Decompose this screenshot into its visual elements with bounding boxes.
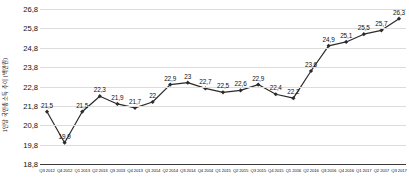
gridline <box>40 106 406 107</box>
y-axis-tick-label: 18,8 <box>23 160 38 169</box>
x-axis-tick-label: Q2 2017 <box>374 168 389 173</box>
y-axis-tick-labels: 26,825,824,823,822,821,820,819,818,8 <box>10 0 38 190</box>
data-point-label: 23 <box>184 73 191 80</box>
data-point-label: 25,7 <box>375 20 387 27</box>
data-point-marker <box>186 81 190 85</box>
y-axis-tick-label: 22,8 <box>23 82 38 91</box>
data-point-label: 19,9 <box>59 133 71 140</box>
x-axis-tick-label: Q3 2013 <box>110 168 125 173</box>
x-axis-tick-label: Q3 2017 <box>391 168 406 173</box>
data-point-label: 22,7 <box>199 78 211 85</box>
data-point-label: 22,5 <box>217 82 229 89</box>
data-point-label: 23,6 <box>305 61 317 68</box>
data-point-marker <box>362 32 366 36</box>
data-point-label: 21,5 <box>76 102 88 109</box>
y-axis-tick-label: 19,8 <box>23 140 38 149</box>
x-axis-tick-label: Q1 2017 <box>356 168 371 173</box>
y-axis-tick-label: 25,8 <box>23 24 38 33</box>
data-point-label: 22,3 <box>94 86 106 93</box>
x-axis-tick-label: Q1 2016 <box>286 168 301 173</box>
plot-area: 21,519,921,522,321,921,72222,92322,722,5… <box>40 9 406 164</box>
gridline <box>40 145 406 146</box>
gridline <box>40 125 406 126</box>
data-point-label: 22,4 <box>270 84 282 91</box>
y-axis-tick-label: 21,8 <box>23 101 38 110</box>
x-axis-tick-label: Q4 2016 <box>338 168 353 173</box>
gridline <box>40 67 406 68</box>
x-axis-tick-label: Q2 2016 <box>303 168 318 173</box>
data-point-label: 22,6 <box>235 80 247 87</box>
x-axis-tick-labels: Q3 2012Q4 2012Q1 2013Q2 2013Q3 2013Q4 20… <box>40 166 406 188</box>
data-point-label: 22,9 <box>164 75 176 82</box>
data-point-label: 21,9 <box>111 94 123 101</box>
data-point-label: 22,2 <box>287 88 299 95</box>
data-point-marker <box>221 90 225 94</box>
data-point-label: 24,9 <box>323 36 335 43</box>
x-axis-tick-label: Q1 2015 <box>215 168 230 173</box>
x-axis-tick-label: Q4 2013 <box>127 168 142 173</box>
data-point-label: 21,7 <box>129 98 141 105</box>
data-point-label: 25,1 <box>340 32 352 39</box>
x-axis-tick-label: Q2 2015 <box>233 168 248 173</box>
y-axis-tick-label: 26,8 <box>23 5 38 14</box>
data-point-label: 21,5 <box>41 102 53 109</box>
data-point-label: 22,9 <box>252 75 264 82</box>
y-axis-tick-label: 24,8 <box>23 43 38 52</box>
data-point-label: 22 <box>149 92 156 99</box>
gridline <box>40 28 406 29</box>
data-point-label: 25,5 <box>358 24 370 31</box>
gridline <box>40 9 406 10</box>
data-point-marker <box>239 88 243 92</box>
x-axis-tick-label: Q4 2012 <box>57 168 72 173</box>
y-axis-tick-label: 20,8 <box>23 121 38 130</box>
x-axis-tick-label: Q3 2012 <box>39 168 54 173</box>
x-axis-tick-label: Q3 2016 <box>321 168 336 173</box>
x-axis-tick-label: Q2 2013 <box>92 168 107 173</box>
x-axis-tick-label: Q1 2014 <box>145 168 160 173</box>
gridline <box>40 48 406 49</box>
x-axis-tick-label: Q1 2013 <box>74 168 89 173</box>
x-axis-tick-label: Q3 2014 <box>180 168 195 173</box>
y-axis-tick-label: 23,8 <box>23 63 38 72</box>
x-axis-tick-label: Q2 2014 <box>162 168 177 173</box>
line-chart: 1인당 국민총소득 추이 (백만원) 26,825,824,823,822,82… <box>0 0 409 190</box>
x-axis-tick-label: Q3 2015 <box>250 168 265 173</box>
data-point-marker <box>344 40 348 44</box>
data-point-label: 26,3 <box>393 9 405 16</box>
x-axis-tick-label: Q4 2014 <box>198 168 213 173</box>
x-axis-tick-label: Q4 2015 <box>268 168 283 173</box>
